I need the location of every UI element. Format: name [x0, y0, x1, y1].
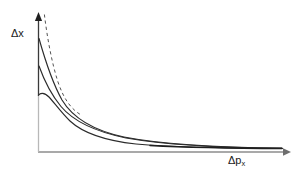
x-axis-label-base: Δp [228, 154, 241, 166]
x-axis-label-subscript: x [241, 159, 245, 168]
solid-curve-mid [39, 66, 282, 148]
y-axis-label: Δx [11, 27, 24, 39]
y-axis-label-text: Δx [11, 27, 24, 39]
x-axis-label: Δpx [228, 154, 245, 166]
y-axis-arrowhead [35, 12, 42, 21]
plot-canvas [0, 0, 303, 180]
x-axis [38, 148, 291, 156]
y-axis [35, 12, 42, 152]
solid-curve-high [39, 39, 282, 149]
x-axis-arrowhead [283, 148, 291, 156]
uncertainty-plot-figure: Δx Δpx [0, 0, 303, 180]
solid-curve-low [39, 93, 282, 148]
dashed-limiting-curve [44, 15, 82, 116]
